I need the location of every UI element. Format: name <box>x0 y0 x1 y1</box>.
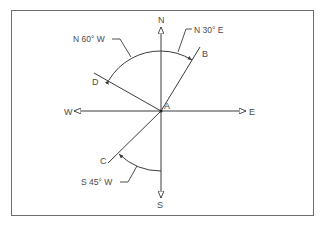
center-label: A <box>164 101 170 111</box>
line-ad <box>94 73 161 111</box>
bearing-n30e-label: N 30° E <box>194 25 224 35</box>
center-point-a <box>160 110 163 113</box>
point-d-label: D <box>92 77 99 87</box>
arc-s45w <box>119 154 161 171</box>
bearing-n60w-label: N 60° W <box>73 34 105 44</box>
leader-n30e <box>178 29 192 52</box>
east-label: E <box>249 107 255 117</box>
west-label: W <box>64 107 73 117</box>
arc-n60w <box>109 51 161 80</box>
south-label: S <box>157 200 163 210</box>
line-ac <box>108 111 161 163</box>
bearing-s45w-label: S 45° W <box>81 177 112 187</box>
arc-n30e <box>161 51 192 60</box>
point-c-label: C <box>100 156 107 166</box>
leader-s45w <box>120 166 137 182</box>
bearing-diagram: N S E W A B C D N 60° W N 30° E S 45° W <box>0 0 324 225</box>
north-label: N <box>158 15 165 25</box>
leader-n60w <box>112 39 131 57</box>
point-b-label: B <box>202 49 208 59</box>
